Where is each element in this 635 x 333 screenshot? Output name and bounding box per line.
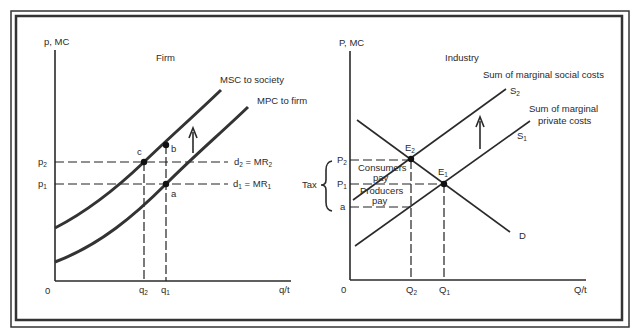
mpc-label: MPC to firm — [257, 95, 307, 106]
externality-diagram: p, MC Firm 0 q/t c b a MSC to society MP… — [0, 0, 635, 333]
firm-origin-label: 0 — [45, 285, 50, 296]
industry-p1-label: P1 — [337, 178, 347, 190]
label-a: a — [171, 188, 177, 199]
industry-title: Industry — [445, 52, 479, 63]
e1-label: E1 — [438, 166, 448, 178]
tax-label: Tax — [302, 179, 317, 190]
inner-frame — [16, 16, 622, 320]
firm-q2-label: q2 — [139, 284, 148, 296]
firm-title: Firm — [156, 52, 175, 63]
private-costs-label-1: Sum of marginal — [529, 103, 598, 114]
firm-y-axis-label: p, MC — [44, 36, 69, 47]
producers-pay-line2: pay — [372, 195, 388, 206]
firm-p2-label: p2 — [38, 156, 47, 168]
label-c: c — [137, 146, 142, 157]
point-c — [141, 159, 147, 165]
industry-p2-label: P2 — [337, 154, 347, 166]
point-a — [163, 181, 169, 187]
s2-curve — [353, 89, 506, 200]
tax-brace-icon — [321, 161, 332, 211]
d1-mr1-label: d1 = MR1 — [233, 178, 272, 190]
label-b: b — [171, 143, 176, 154]
firm-q1-label: q1 — [161, 284, 170, 296]
industry-a-label: a — [340, 201, 346, 212]
social-costs-label: Sum of marginal social costs — [483, 69, 604, 80]
equilibrium-e2 — [408, 156, 414, 162]
firm-x-axis-label: q/t — [279, 284, 290, 295]
industry-y-axis-label: P, MC — [339, 37, 364, 48]
industry-x-axis-label: Q/t — [574, 284, 587, 295]
firm-p1-label: p1 — [38, 178, 47, 190]
s1-label: S1 — [517, 130, 527, 142]
d2-mr2-label: d2 = MR2 — [234, 156, 273, 168]
industry-panel: P, MC Industry 0 Q/t E2 E1 Sum of margin… — [302, 37, 604, 296]
demand-label: D — [519, 230, 526, 241]
e2-label: E2 — [405, 142, 415, 154]
msc-label: MSC to society — [220, 74, 284, 85]
consumers-pay-line2: pay — [373, 172, 389, 183]
private-costs-label-2: private costs — [538, 115, 592, 126]
industry-q1-label: Q1 — [439, 284, 450, 296]
equilibrium-e1 — [441, 181, 447, 187]
firm-panel: p, MC Firm 0 q/t c b a MSC to society MP… — [38, 36, 307, 296]
point-b — [163, 142, 169, 148]
industry-origin-label: 0 — [341, 284, 346, 295]
industry-q2-label: Q2 — [406, 284, 417, 296]
s2-label: S2 — [510, 85, 520, 97]
msc-curve — [55, 90, 221, 228]
